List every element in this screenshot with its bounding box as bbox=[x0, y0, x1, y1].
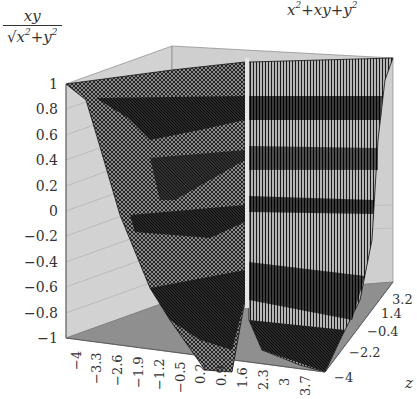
z-tick: 0.4 bbox=[0, 153, 58, 167]
left-formula: xy √x2+y2 bbox=[3, 6, 62, 46]
x-tick: −1.9 bbox=[132, 356, 145, 388]
sqrt-symbol: √ bbox=[7, 28, 17, 46]
discontinuity-gap bbox=[245, 58, 249, 308]
z-tick: −0.8 bbox=[0, 306, 58, 320]
z-tick: −0.4 bbox=[0, 255, 58, 269]
x-tick: −0.5 bbox=[174, 361, 187, 393]
right-formula-denominator: x2+xy+y2 bbox=[287, 0, 358, 19]
z-tick: 1 bbox=[0, 77, 58, 91]
x-tick: 0.9 bbox=[215, 365, 228, 386]
right-den-mid: +xy+ bbox=[301, 1, 343, 19]
left-formula-denominator: √x2+y2 bbox=[3, 25, 62, 46]
plot-canvas bbox=[0, 0, 417, 399]
x-tick: −4 bbox=[70, 351, 83, 370]
x-tick: −2.6 bbox=[111, 354, 124, 386]
z-tick: 0.6 bbox=[0, 128, 58, 142]
z-axis-label: z bbox=[405, 376, 413, 391]
z-tick: 0 bbox=[0, 204, 58, 218]
right-den-y: y bbox=[343, 1, 351, 19]
z-tick: −1 bbox=[0, 331, 58, 345]
y-tick: −0.4 bbox=[367, 325, 399, 338]
surface-plot: xy √x2+y2 x2+xy+y2 1 0.8 0.6 0.4 0.2 0 −… bbox=[0, 0, 417, 399]
x-tick: 3.7 bbox=[299, 375, 312, 396]
x-tick: −3.3 bbox=[90, 352, 103, 384]
x-tick: 3 bbox=[278, 378, 291, 386]
z-tick: 0.2 bbox=[0, 179, 58, 193]
z-tick: −0.6 bbox=[0, 280, 58, 294]
den-plus: + bbox=[31, 28, 44, 46]
x-tick: −1.2 bbox=[153, 358, 166, 390]
z-tick: 0.8 bbox=[0, 102, 58, 116]
left-formula-numerator: xy bbox=[20, 7, 45, 25]
den-x: x bbox=[17, 28, 25, 46]
z-tick: −0.2 bbox=[0, 229, 58, 243]
x-tick: 2.3 bbox=[257, 369, 270, 390]
y-tick: 1.4 bbox=[381, 307, 402, 320]
x-tick: 1.6 bbox=[236, 367, 249, 388]
y-tick: 3.2 bbox=[392, 293, 413, 306]
den-y: y bbox=[43, 28, 51, 46]
y-tick: −2.2 bbox=[349, 346, 381, 359]
x-tick: 0.2 bbox=[194, 363, 207, 384]
y-tick: −4 bbox=[334, 371, 353, 384]
